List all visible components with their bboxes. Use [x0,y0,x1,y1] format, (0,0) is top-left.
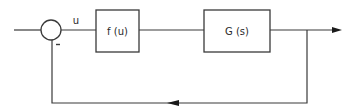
nonlinearity-block-label: f (u) [107,26,128,37]
feedback-arrow-icon [167,100,179,106]
feedback-sign-text: - [56,38,60,49]
summing-junction [41,20,61,40]
plant-block-label: G (s) [225,26,249,37]
output-arrow-icon [332,27,342,33]
block-diagram: u f (u) G (s) - [0,0,359,111]
error-signal-label: u [73,15,79,26]
plant-block: G (s) [204,10,270,52]
nonlinearity-block: f (u) [96,10,139,52]
